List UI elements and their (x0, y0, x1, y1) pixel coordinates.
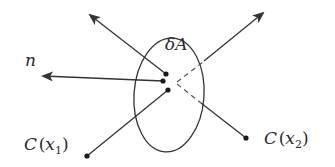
point1-dot (84, 153, 89, 158)
line-to-point2 (201, 103, 246, 138)
point2-dot (243, 135, 248, 140)
diagram-canvas: δA n C (x1) C (x2) (0, 0, 335, 167)
normal-vector-arrow (43, 76, 163, 81)
dashed-hidden-segment-upper (177, 62, 203, 82)
origin-dot-middle (160, 78, 165, 83)
point2-label: C (x2) (264, 130, 309, 150)
point1-label: C (x1) (24, 136, 69, 156)
origin-dot-top (163, 71, 168, 76)
origin-dot-bottom (165, 87, 170, 92)
surface-label: δA (165, 36, 188, 53)
normal-label: n (25, 52, 36, 69)
line-from-point1 (87, 90, 168, 156)
dashed-hidden-segment-lower (177, 84, 201, 103)
ray-upper-right-arrow (204, 13, 263, 61)
